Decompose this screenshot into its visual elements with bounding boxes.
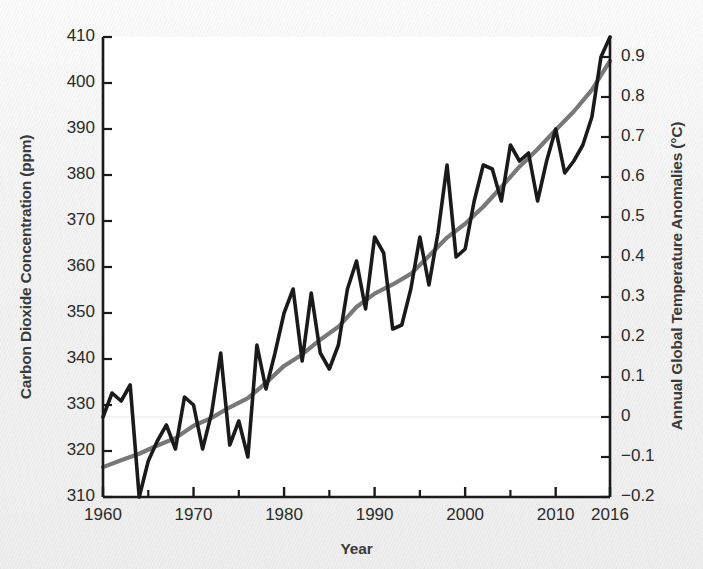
y-right-tick-label: 0.3 xyxy=(621,286,645,306)
y-left-tick-label: 410 xyxy=(67,26,95,46)
y-right-tick-label: −0.2 xyxy=(621,486,655,506)
y-right-tick-label: 0 xyxy=(621,406,630,426)
y-left-tick-label: 370 xyxy=(67,210,95,230)
y-right-tick-label: 0.9 xyxy=(621,46,645,66)
y-right-tick-label: 0.8 xyxy=(621,86,645,106)
y-right-tick-label: 0.1 xyxy=(621,366,645,386)
x-tick-label: 1970 xyxy=(164,505,224,525)
y-left-tick-label: 330 xyxy=(67,394,95,414)
y-left-tick-label: 310 xyxy=(67,486,95,506)
y-left-tick-label: 320 xyxy=(67,440,95,460)
y-left-tick-label: 360 xyxy=(67,256,95,276)
y-left-tick-label: 380 xyxy=(67,164,95,184)
y-right-tick-label: 0.7 xyxy=(621,126,645,146)
x-tick-label: 2016 xyxy=(580,505,640,525)
x-tick-label: 1960 xyxy=(73,505,133,525)
climate-chart-figure: Carbon Dioxide Concentration (ppm) Annua… xyxy=(0,0,703,569)
y-right-tick-label: 0.6 xyxy=(621,166,645,186)
x-tick-label: 1980 xyxy=(254,505,314,525)
y-left-tick-label: 400 xyxy=(67,72,95,92)
plot-area xyxy=(0,0,703,569)
x-tick-label: 2000 xyxy=(435,505,495,525)
y-left-tick-label: 350 xyxy=(67,302,95,322)
x-tick-label: 1990 xyxy=(345,505,405,525)
y-left-tick-label: 340 xyxy=(67,348,95,368)
y-right-tick-label: 0.4 xyxy=(621,246,645,266)
y-right-tick-label: 0.2 xyxy=(621,326,645,346)
y-right-tick-label: 0.5 xyxy=(621,206,645,226)
y-left-tick-label: 390 xyxy=(67,118,95,138)
x-tick-label: 2010 xyxy=(526,505,586,525)
y-right-tick-label: −0.1 xyxy=(621,446,655,466)
